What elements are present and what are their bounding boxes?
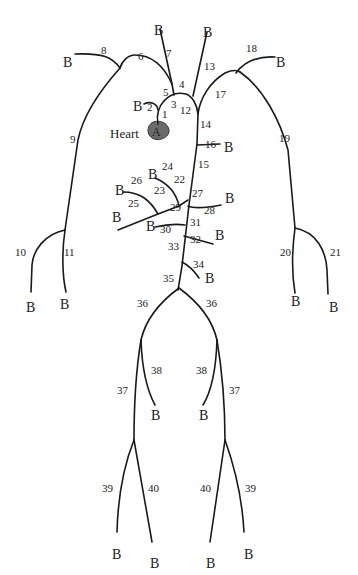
segment-label-22: 22 [174, 173, 185, 185]
segment-label-17: 17 [215, 88, 227, 100]
boundary-label-B18: B [276, 55, 285, 70]
segment-label-24: 24 [162, 160, 174, 172]
segment-label-34: 34 [193, 258, 205, 270]
segment-label-9: 9 [70, 133, 76, 145]
segment-label-4: 4 [179, 78, 185, 90]
vessel-21 [295, 228, 328, 294]
segment-label-3: 3 [171, 98, 177, 110]
segment-label-38L: 38 [151, 364, 163, 376]
vessel-39-left [117, 440, 134, 532]
segment-label-6: 6 [138, 50, 144, 62]
boundary-label-B8: B [63, 55, 72, 70]
segment-label-2: 2 [147, 101, 153, 113]
segment-label-31: 31 [190, 216, 201, 228]
segment-label-5: 5 [163, 86, 169, 98]
vessel-20 [293, 228, 295, 293]
boundary-label-B11: B [60, 297, 69, 312]
segment-label-39L: 39 [102, 482, 114, 494]
vessel-40-right [210, 440, 225, 542]
segment-label-12: 12 [180, 104, 191, 116]
segment-label-36L: 36 [137, 297, 149, 309]
vessel-19 [240, 72, 295, 228]
heart-label: Heart [110, 126, 139, 141]
boundary-label-B40R: B [206, 556, 215, 571]
segment-label-30: 30 [160, 223, 172, 235]
vessel-10 [31, 230, 65, 292]
segment-label-40R: 40 [200, 482, 212, 494]
segment-label-25: 25 [128, 197, 140, 209]
segment-label-26: 26 [131, 174, 143, 186]
boundary-label-B25: B [112, 210, 121, 225]
boundary-label-B39R: B [244, 547, 253, 562]
vessel-37-right [217, 340, 225, 440]
segment-label-28: 28 [204, 204, 216, 216]
boundary-label-B20: B [291, 294, 300, 309]
segment-label-40L: 40 [148, 482, 160, 494]
segment-label-13: 13 [204, 60, 216, 72]
segment-label-21: 21 [330, 246, 341, 258]
segment-label-1: 1 [162, 108, 168, 120]
boundary-label-B38R: B [199, 408, 208, 423]
boundary-label-B39L: B [112, 547, 121, 562]
segment-label-32: 32 [190, 233, 201, 245]
segment-label-29: 29 [170, 201, 182, 213]
segment-label-39R: 39 [245, 482, 257, 494]
segment-label-35: 35 [163, 272, 175, 284]
segment-label-19: 19 [279, 132, 291, 144]
segment-label-14: 14 [200, 118, 212, 130]
arterial-tree-diagram: Heart A 12345678910111213141516171819202… [0, 0, 358, 575]
segment-label-10: 10 [15, 246, 27, 258]
vessel-11 [63, 230, 66, 292]
segment-label-38R: 38 [196, 364, 208, 376]
segment-label-7: 7 [166, 47, 172, 59]
segment-label-18: 18 [246, 42, 258, 54]
segment-label-33: 33 [168, 240, 180, 252]
boundary-label-B13: B [203, 25, 212, 40]
boundary-label-B26: B [115, 183, 124, 198]
segment-label-20: 20 [280, 246, 292, 258]
vessel-9 [65, 68, 120, 230]
boundary-label-B38L: B [151, 408, 160, 423]
boundary-label-B34: B [205, 271, 214, 286]
vessel-37-left [134, 340, 141, 440]
segment-label-16: 16 [205, 138, 217, 150]
segment-label-8: 8 [101, 44, 107, 56]
boundary-label-B32: B [215, 228, 224, 243]
boundary-label-B21: B [329, 300, 338, 315]
boundary-label-B40L: B [150, 556, 159, 571]
segment-label-23: 23 [154, 184, 166, 196]
segment-label-36R: 36 [206, 297, 218, 309]
vessel-6 [120, 55, 172, 84]
boundary-label-B16: B [224, 140, 233, 155]
vessel-8 [75, 54, 120, 68]
boundary-label-B24: B [148, 167, 157, 182]
segment-label-37L: 37 [117, 384, 129, 396]
vessel-36-left [141, 288, 179, 340]
boundary-label-B30: B [146, 219, 155, 234]
boundary-label-B7: B [154, 23, 163, 38]
boundary-label-B28: B [225, 191, 234, 206]
heart-letter: A [152, 125, 161, 139]
segment-label-37R: 37 [229, 384, 241, 396]
boundary-label-B2: B [133, 99, 142, 114]
segment-label-11: 11 [64, 246, 75, 258]
vessel-5 [172, 84, 174, 95]
vessel-36-right [179, 288, 217, 340]
vessel-39-right [225, 440, 244, 532]
boundary-label-B10: B [26, 300, 35, 315]
vessel-18 [236, 57, 275, 73]
segment-label-27: 27 [192, 187, 204, 199]
segment-label-15: 15 [198, 158, 210, 170]
